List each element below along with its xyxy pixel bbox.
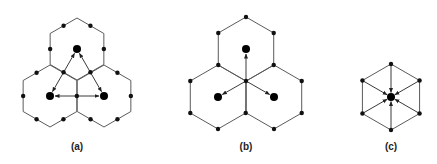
- lattice-node: [48, 47, 52, 51]
- panel-a-diagram: [21, 18, 133, 127]
- panel-b-label: (b): [240, 141, 253, 152]
- arrow: [222, 81, 246, 95]
- panel-a-label: (a): [71, 141, 83, 152]
- lattice-node: [88, 24, 92, 28]
- lattice-node: [272, 63, 276, 67]
- panel-c-label: (c): [385, 141, 397, 152]
- site-node: [46, 92, 54, 100]
- site-node: [242, 45, 250, 53]
- lattice-node: [389, 128, 393, 132]
- lattice-node: [216, 127, 220, 131]
- lattice-node: [272, 31, 276, 35]
- lattice-node: [360, 111, 364, 115]
- lattice-node: [360, 78, 364, 82]
- lattice-node: [272, 127, 276, 131]
- lattice-node: [75, 94, 79, 98]
- arrow: [362, 81, 387, 95]
- lattice-node: [61, 24, 65, 28]
- lattice-node: [300, 79, 304, 83]
- site-node: [270, 93, 278, 101]
- arrow: [395, 81, 420, 95]
- lattice-diagram: [0, 0, 437, 164]
- lattice-node: [115, 117, 119, 121]
- lattice-node: [244, 79, 248, 83]
- lattice-node: [216, 31, 220, 35]
- lattice-node: [244, 111, 248, 115]
- site-node: [387, 93, 395, 101]
- lattice-node: [129, 94, 133, 98]
- panel-b-diagram: [188, 15, 304, 131]
- lattice-node: [300, 111, 304, 115]
- lattice-node: [88, 117, 92, 121]
- lattice-node: [102, 47, 106, 51]
- site-node: [214, 93, 222, 101]
- panel-c-diagram: [360, 62, 422, 132]
- lattice-node: [34, 71, 38, 75]
- lattice-node: [61, 70, 65, 74]
- arrow: [246, 81, 270, 95]
- site-node: [100, 92, 108, 100]
- lattice-node: [88, 70, 92, 74]
- arrow: [362, 99, 387, 113]
- lattice-node: [216, 63, 220, 67]
- lattice-node: [61, 117, 65, 121]
- site-node: [73, 45, 81, 53]
- arrow: [395, 99, 420, 113]
- lattice-node: [244, 15, 248, 19]
- lattice-node: [389, 62, 393, 66]
- lattice-node: [34, 117, 38, 121]
- lattice-node: [417, 78, 421, 82]
- lattice-node: [417, 111, 421, 115]
- lattice-node: [188, 111, 192, 115]
- lattice-node: [115, 71, 119, 75]
- lattice-node: [21, 94, 25, 98]
- lattice-node: [188, 79, 192, 83]
